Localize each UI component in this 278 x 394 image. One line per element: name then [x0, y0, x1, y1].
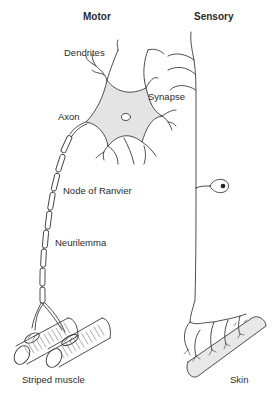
diagram-artwork [0, 0, 278, 394]
label-skin: Skin [230, 374, 248, 385]
label-axon: Axon [58, 111, 80, 122]
neuron-diagram: Motor Sensory Dendrites Synapse Axon Nod… [0, 0, 278, 394]
sensory-cell-body [210, 179, 229, 192]
motor-nucleus [122, 114, 131, 121]
motor-heading: Motor [83, 11, 111, 22]
sensory-neuron [168, 32, 266, 377]
motor-neuron [11, 40, 176, 370]
label-neurilemma: Neurilemma [55, 237, 106, 248]
motor-cell-body [86, 80, 162, 146]
sensory-heading: Sensory [194, 11, 233, 22]
label-synapse: Synapse [148, 91, 185, 102]
skin-patch [184, 314, 266, 377]
label-striped-muscle: Striped muscle [22, 374, 85, 385]
label-dendrites: Dendrites [64, 47, 105, 58]
motor-axon [32, 122, 87, 332]
label-node-of-ranvier: Node of Ranvier [63, 185, 132, 196]
striped-muscle [11, 318, 111, 370]
sensory-nucleus [221, 184, 226, 189]
